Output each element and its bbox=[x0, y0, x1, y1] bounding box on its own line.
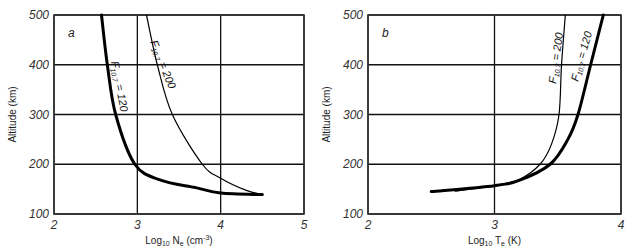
x-axis-label: Log10 Te (K) bbox=[468, 235, 521, 247]
y-tick-label: 300 bbox=[343, 108, 363, 122]
y-tick-label: 100 bbox=[343, 207, 363, 221]
y-axis-label: Altitude (km) bbox=[7, 86, 18, 142]
y-tick-label: 500 bbox=[343, 8, 363, 22]
y-tick-label: 200 bbox=[28, 157, 49, 171]
x-tick-label: 3 bbox=[134, 218, 141, 232]
y-tick-label: 400 bbox=[29, 58, 49, 72]
x-tick-label: 3 bbox=[491, 218, 498, 232]
y-tick-label: 400 bbox=[343, 58, 363, 72]
x-tick-label: 4 bbox=[217, 218, 224, 232]
series-curve-120 bbox=[431, 15, 603, 192]
chart-panel-a: 2345100200300400500Log10 Ne (cm-3)Altitu… bbox=[7, 8, 308, 247]
x-tick-label: 2 bbox=[50, 218, 58, 232]
panel-label: a bbox=[68, 26, 75, 40]
x-axis-label: Log10 Ne (cm-3) bbox=[145, 234, 212, 247]
y-tick-label: 300 bbox=[29, 108, 49, 122]
x-tick-label: 5 bbox=[301, 218, 308, 232]
x-tick-label: 4 bbox=[618, 218, 625, 232]
panel-label: b bbox=[382, 26, 389, 40]
series-curve-200 bbox=[147, 15, 263, 195]
chart-panel-b: 234100200300400500Log10 Te (K)Altitude (… bbox=[321, 8, 625, 247]
figure: 2345100200300400500Log10 Ne (cm-3)Altitu… bbox=[0, 0, 634, 249]
series-annotation: F10.7 = 120 bbox=[568, 29, 595, 83]
x-tick-label: 2 bbox=[364, 218, 372, 232]
y-tick-label: 100 bbox=[29, 207, 49, 221]
y-tick-label: 200 bbox=[342, 157, 363, 171]
y-axis-label: Altitude (km) bbox=[321, 86, 332, 142]
series-annotation: F10.7 = 200 bbox=[546, 31, 566, 84]
y-tick-label: 500 bbox=[29, 8, 49, 22]
